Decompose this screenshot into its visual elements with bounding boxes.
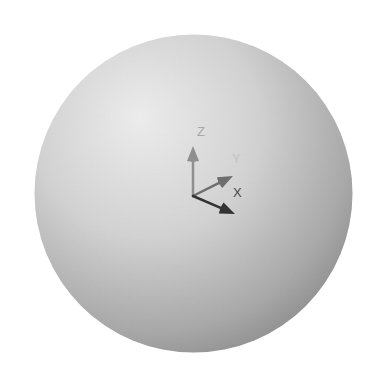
x-axis-label: X bbox=[233, 185, 242, 200]
y-axis-label: Y bbox=[232, 151, 241, 166]
z-axis-label: Z bbox=[197, 124, 205, 139]
3d-viewport[interactable]: ZYX bbox=[0, 0, 382, 372]
scene-canvas[interactable]: ZYX bbox=[0, 0, 382, 372]
